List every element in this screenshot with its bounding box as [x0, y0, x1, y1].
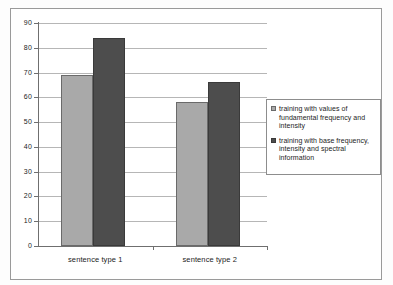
bar-2-series-1 — [208, 82, 240, 246]
legend-label-series-0: training with values of fundamental freq… — [279, 105, 376, 131]
x-axis-category-label: sentence type 1 — [38, 255, 153, 264]
x-axis-category-label: sentence type 2 — [153, 255, 268, 264]
y-axis-tick-label: 30 — [6, 168, 32, 175]
y-axis-tick-label: 40 — [6, 143, 32, 150]
x-axis-tick — [153, 246, 154, 250]
y-axis-tick-label: 60 — [6, 93, 32, 100]
legend-entry-series-1: training with base frequency, intensity … — [271, 137, 376, 163]
bar-1-series-0 — [61, 75, 93, 246]
y-axis-tick-label: 90 — [6, 19, 32, 26]
legend-entry-series-0: training with values of fundamental freq… — [271, 105, 376, 131]
y-axis-tick-label: 50 — [6, 118, 32, 125]
y-axis-tick-label: 80 — [6, 44, 32, 51]
y-axis-tick-label: 0 — [6, 242, 32, 249]
y-axis-tick-label: 20 — [6, 192, 32, 199]
x-axis-tick — [267, 246, 268, 250]
bar-1-series-1 — [93, 38, 125, 246]
y-axis-tick-label: 70 — [6, 69, 32, 76]
legend-label-series-1: training with base frequency, intensity … — [279, 137, 376, 163]
bar-2-series-0 — [176, 102, 208, 246]
chart-legend: training with values of fundamental freq… — [266, 99, 381, 175]
bar-chart-figure: 0102030405060708090 sentence type 1sente… — [0, 0, 393, 285]
y-axis-tick-labels: 0102030405060708090 — [0, 0, 32, 285]
y-axis-tick-label: 10 — [6, 217, 32, 224]
legend-swatch-icon-series-1 — [271, 138, 276, 143]
legend-swatch-icon-series-0 — [271, 106, 276, 111]
bars-layer — [38, 23, 267, 246]
